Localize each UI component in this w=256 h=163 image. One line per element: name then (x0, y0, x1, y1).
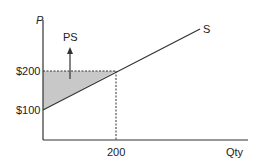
y-axis-label: P (36, 14, 44, 26)
price-label-200: $200 (16, 65, 40, 77)
quantity-label-200: 200 (107, 146, 125, 158)
ps-label: PS (63, 31, 78, 43)
arrow-head-icon (67, 47, 73, 54)
producer-surplus-diagram: P PS S $200 $100 200 Qty (0, 0, 256, 163)
price-label-100: $100 (16, 104, 40, 116)
supply-label: S (203, 23, 210, 35)
x-axis-label: Qty (226, 146, 244, 158)
